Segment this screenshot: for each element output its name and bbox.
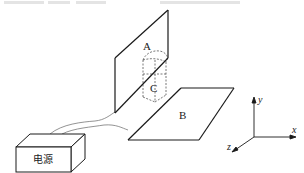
plate-a-label: A <box>143 40 151 52</box>
power-supply-label: 电源 <box>33 153 53 165</box>
coordinate-axes <box>232 97 296 152</box>
z-axis-label: z <box>226 141 231 152</box>
region-c-label: C <box>150 82 157 94</box>
region-c <box>143 51 167 102</box>
wires <box>50 112 128 134</box>
plate-b-label: B <box>179 109 186 121</box>
plate-a <box>115 10 168 113</box>
wire-to-b <box>62 125 128 134</box>
y-axis-label: y <box>257 94 263 105</box>
faded-top-text <box>4 1 240 4</box>
power-supply-box <box>16 134 85 172</box>
wire-to-a <box>50 112 115 134</box>
x-axis-label: x <box>291 124 297 135</box>
diagram-canvas: A B C 电源 y x z <box>0 0 304 173</box>
